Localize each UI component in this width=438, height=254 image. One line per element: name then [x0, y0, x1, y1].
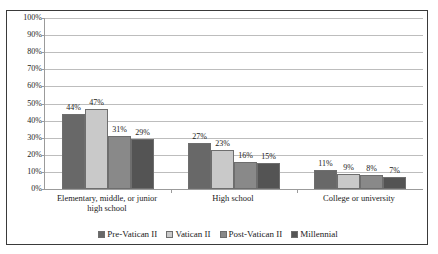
legend-label: Vatican II: [175, 230, 210, 239]
bar[interactable]: [383, 177, 406, 189]
bar-value-label: 29%: [128, 129, 157, 137]
legend-label: Pre-Vatican II: [107, 230, 157, 239]
y-axis-tick-label: 10%: [27, 168, 42, 176]
y-axis-tick-label: 0%: [31, 185, 42, 193]
x-axis-category-labels: Elementary, middle, or juniorhigh school…: [44, 193, 422, 223]
x-axis-category-label: High school: [170, 193, 296, 203]
bar[interactable]: [188, 143, 211, 189]
y-axis-tick-label: 40%: [27, 117, 42, 125]
legend-item[interactable]: Post-Vatican II: [220, 230, 283, 239]
bar-value-label: 15%: [254, 153, 283, 161]
x-axis-category-label-line: Elementary, middle, or junior: [44, 193, 170, 203]
plot-area: 44%47%31%29%27%23%16%15%11%9%8%7%: [44, 18, 423, 189]
bar-value-label: 23%: [208, 140, 237, 148]
legend-swatch-icon: [291, 231, 298, 238]
bar[interactable]: [108, 136, 131, 189]
y-axis-tick-mark: [42, 189, 45, 190]
legend-item[interactable]: Vatican II: [166, 230, 210, 239]
legend-item[interactable]: Millennial: [291, 230, 338, 239]
axis-baseline: [45, 189, 423, 190]
legend-item[interactable]: Pre-Vatican II: [98, 230, 157, 239]
bar-value-label: 47%: [82, 99, 111, 107]
y-axis-tick-label: 80%: [27, 48, 42, 56]
chart-legend: Pre-Vatican IIVatican IIPost-Vatican IIM…: [7, 223, 429, 245]
plot-region: 100%90%80%70%60%50%40%30%20%10%0% 44%47%…: [7, 11, 429, 223]
x-axis-category-label: College or university: [296, 193, 422, 203]
legend-swatch-icon: [98, 231, 105, 238]
x-axis-category-label: Elementary, middle, or juniorhigh school: [44, 193, 170, 213]
y-axis-tick-label: 30%: [27, 134, 42, 142]
x-axis-category-label-line: High school: [170, 193, 296, 203]
bar[interactable]: [85, 109, 108, 189]
y-axis-tick-label: 60%: [27, 82, 42, 90]
chart-figure: 100%90%80%70%60%50%40%30%20%10%0% 44%47%…: [6, 10, 428, 245]
legend-swatch-icon: [166, 231, 173, 238]
bar-value-label: 7%: [380, 167, 409, 175]
bar[interactable]: [131, 139, 154, 189]
legend-label: Post-Vatican II: [229, 230, 283, 239]
bar[interactable]: [234, 162, 257, 189]
bars-layer: 44%47%31%29%27%23%16%15%11%9%8%7%: [45, 18, 423, 189]
y-axis-tick-label: 20%: [27, 151, 42, 159]
x-axis-category-label-line: College or university: [296, 193, 422, 203]
x-axis-category-label-line: high school: [44, 203, 170, 213]
bar[interactable]: [360, 175, 383, 189]
bar[interactable]: [257, 163, 280, 189]
y-axis: 100%90%80%70%60%50%40%30%20%10%0%: [7, 11, 44, 193]
legend-swatch-icon: [220, 231, 227, 238]
bar[interactable]: [314, 170, 337, 189]
y-axis-tick-label: 90%: [27, 31, 42, 39]
y-axis-tick-label: 70%: [27, 65, 42, 73]
y-axis-tick-label: 50%: [27, 100, 42, 108]
bar[interactable]: [337, 174, 360, 189]
legend-label: Millennial: [300, 230, 338, 239]
y-axis-tick-label: 100%: [23, 14, 42, 22]
bar[interactable]: [62, 114, 85, 189]
